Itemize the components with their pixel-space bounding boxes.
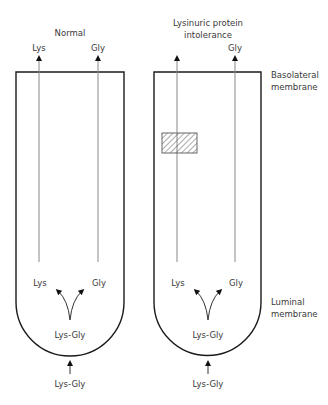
luminal-label-line2: membrane (271, 309, 318, 320)
normal-inner-lys-label: Lys (33, 278, 46, 289)
basolateral-label-line1: Basolateral (271, 70, 319, 81)
lpi-cell-outline (154, 72, 261, 356)
lpi-inner-lys-label: Lys (171, 278, 184, 289)
lpi-inner-gly-label: Gly (229, 278, 243, 289)
normal-dipeptide-label: Lys-Gly (55, 330, 86, 341)
normal-outside-label: Lys-Gly (55, 379, 86, 390)
lpi-top-gly-label: Gly (228, 43, 242, 54)
lpi-split-arrow-left (196, 291, 208, 320)
diagram-canvas (0, 0, 328, 405)
lpi-dipeptide-label: Lys-Gly (193, 330, 224, 341)
normal-cell-outline (16, 72, 124, 356)
transport-defect-block (162, 133, 197, 153)
luminal-label-line1: Luminal (271, 297, 305, 308)
normal-title: Normal (55, 28, 86, 39)
lpi-title-line2: intolerance (184, 30, 232, 41)
basolateral-label-line2: membrane (271, 82, 318, 93)
normal-split-arrow-left (58, 291, 70, 320)
normal-top-gly-label: Gly (91, 43, 105, 54)
normal-inner-gly-label: Gly (92, 278, 106, 289)
normal-split-arrow-right (70, 291, 82, 320)
lpi-outside-label: Lys-Gly (193, 379, 224, 390)
lpi-title-line1: Lysinuric protein (173, 18, 243, 29)
normal-top-lys-label: Lys (32, 43, 45, 54)
lpi-split-arrow-right (208, 291, 220, 320)
